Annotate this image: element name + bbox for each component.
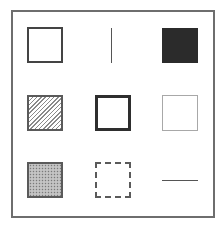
square-thick-outline bbox=[95, 95, 131, 131]
square-dashed-outline bbox=[95, 162, 131, 198]
square-thin-light-outline bbox=[162, 95, 198, 131]
vertical-line bbox=[111, 28, 112, 63]
square-outline bbox=[27, 27, 63, 63]
square-diagonal-hatch bbox=[27, 95, 63, 131]
horizontal-line bbox=[162, 180, 198, 181]
square-filled-dark bbox=[162, 28, 198, 63]
square-stippled-fill bbox=[27, 162, 63, 198]
